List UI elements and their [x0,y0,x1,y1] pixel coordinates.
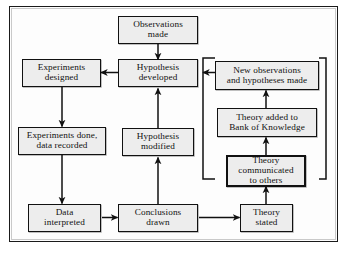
diagram-canvas: Observations made Hypothesis developed E… [0,0,351,259]
node-label-line3: to others [236,176,295,186]
node-new-observations[interactable]: New observations and hypotheses made [215,61,319,90]
node-label-line2: designed [36,73,88,83]
node-theory-stated[interactable]: Theory stated [240,204,293,232]
node-label-line2: and hypotheses made [225,76,309,86]
node-label-line2: data recorded [25,141,100,151]
node-label-line2: stated [251,218,282,228]
node-label-line2: Bank of Knowledge [227,123,307,133]
node-experiments-done[interactable]: Experiments done, data recorded [18,127,106,155]
node-label-line2: developed [135,73,181,83]
node-observations-made[interactable]: Observations made [118,16,198,44]
node-label-line2: interpreted [42,218,87,228]
node-label-line1: Theory added to [227,113,307,123]
node-theory-communicated[interactable]: Theory communicated to others [226,155,306,187]
node-theory-added-to-bank[interactable]: Theory added to Bank of Knowledge [217,108,317,137]
node-hypothesis-modified[interactable]: Hypothesis modified [122,128,194,156]
node-experiments-designed[interactable]: Experiments designed [22,59,101,87]
node-hypothesis-developed[interactable]: Hypothesis developed [118,59,198,87]
node-label-line2: modified [135,142,181,152]
node-conclusions-drawn[interactable]: Conclusions drawn [118,204,198,232]
node-label-line1: New observations [225,66,309,76]
node-label-line2: made [131,30,185,40]
node-data-interpreted[interactable]: Data interpreted [28,204,101,232]
node-label-line2: drawn [133,218,184,228]
